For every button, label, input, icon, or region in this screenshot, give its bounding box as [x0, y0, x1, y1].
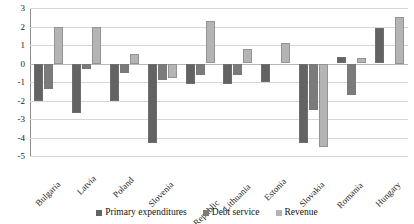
- bar-slot: [34, 8, 43, 156]
- x-axis-label-text: Estonia: [262, 177, 287, 202]
- y-axis-tick-label: 1: [21, 41, 31, 50]
- bar[interactable]: [375, 28, 384, 63]
- legend-swatch-icon: [276, 210, 282, 216]
- legend-label: Primary expenditures: [105, 208, 187, 218]
- bar-group: [332, 8, 370, 156]
- bar-group-bars: [257, 8, 295, 156]
- bar-slot: [281, 8, 290, 156]
- bar-slot: [82, 8, 91, 156]
- bar[interactable]: [54, 27, 63, 64]
- bar-slot: [357, 8, 366, 156]
- x-axis-label-text: Bulgaria: [34, 180, 62, 208]
- bar[interactable]: [281, 43, 290, 63]
- bar[interactable]: [309, 64, 318, 110]
- bar-slot: [385, 8, 394, 156]
- bar[interactable]: [72, 64, 81, 114]
- bar-slot: [92, 8, 101, 156]
- bar-group-bars: [295, 8, 333, 156]
- bar[interactable]: [233, 64, 242, 75]
- bar-slot: [271, 8, 280, 156]
- bar[interactable]: [34, 64, 43, 101]
- y-axis-tick-label: -1: [18, 78, 31, 87]
- bar-group-bars: [332, 8, 370, 156]
- x-axis-label-cell: Bulgaria: [30, 156, 68, 206]
- bar[interactable]: [130, 54, 139, 63]
- bar[interactable]: [261, 64, 270, 83]
- x-axis-label-text: Romania: [336, 181, 365, 210]
- bar-group: [143, 8, 181, 156]
- x-axis-label: Hungary: [396, 158, 414, 187]
- x-axis-label-cell: Slovenia: [143, 156, 181, 206]
- legend-label: Debt service: [212, 208, 260, 218]
- bar-group-bars: [30, 8, 68, 156]
- bar-slot: [186, 8, 195, 156]
- bar[interactable]: [148, 64, 157, 144]
- bar-group: [370, 8, 408, 156]
- y-axis-tick-label: -4: [18, 133, 31, 142]
- legend-item[interactable]: Revenue: [276, 208, 318, 218]
- x-axis-label-cell: Hungary: [370, 156, 408, 206]
- x-axis-label-cell: Slovakia: [295, 156, 333, 206]
- x-axis-label-cell: Romania: [332, 156, 370, 206]
- bar-group: [68, 8, 106, 156]
- y-axis-tick-label: 3: [21, 4, 31, 13]
- bar-groups: [30, 8, 408, 156]
- bar-slot: [110, 8, 119, 156]
- bar-group-bars: [219, 8, 257, 156]
- bar[interactable]: [44, 64, 53, 90]
- bar-group: [257, 8, 295, 156]
- bar-slot: [158, 8, 167, 156]
- x-axis-label-text: Latvia: [75, 174, 98, 197]
- bar-slot: [223, 8, 232, 156]
- legend-swatch-icon: [96, 210, 102, 216]
- bar-slot: [319, 8, 328, 156]
- bar[interactable]: [120, 64, 129, 73]
- bar[interactable]: [92, 27, 101, 64]
- bar[interactable]: [110, 64, 119, 101]
- bar[interactable]: [168, 64, 177, 79]
- y-axis-tick-label: 2: [21, 22, 31, 31]
- legend-item[interactable]: Debt service: [203, 208, 260, 218]
- bar[interactable]: [319, 64, 328, 147]
- bar[interactable]: [196, 64, 205, 75]
- bar[interactable]: [299, 64, 308, 144]
- chart-legend: Primary expendituresDebt serviceRevenue: [0, 208, 414, 218]
- y-axis-tick-label: -3: [18, 115, 31, 124]
- bar-slot: [72, 8, 81, 156]
- bar-group: [30, 8, 68, 156]
- bar-slot: [243, 8, 252, 156]
- bar-chart: 3210-1-2-3-4-5 BulgariaLatviaPolandSlove…: [0, 0, 414, 224]
- bar[interactable]: [223, 64, 232, 84]
- x-axis-label-cell: Czech Republic: [181, 156, 219, 206]
- bar[interactable]: [158, 64, 167, 81]
- bar[interactable]: [243, 49, 252, 64]
- bar[interactable]: [206, 21, 215, 64]
- x-axis-label-cell: Latvia: [68, 156, 106, 206]
- bar-group: [181, 8, 219, 156]
- bar-group-bars: [181, 8, 219, 156]
- y-axis-tick-label: -5: [18, 152, 31, 161]
- bar[interactable]: [186, 64, 195, 84]
- bar[interactable]: [347, 64, 356, 95]
- bar-group-bars: [370, 8, 408, 156]
- x-axis-label-text: Slovakia: [298, 180, 327, 209]
- bar-group: [106, 8, 144, 156]
- x-axis-label-cell: Lithuania: [219, 156, 257, 206]
- bar[interactable]: [395, 17, 404, 63]
- bar-slot: [395, 8, 404, 156]
- x-axis-label-text: Hungary: [374, 180, 403, 209]
- bar[interactable]: [82, 64, 91, 70]
- x-axis-label-text: Poland: [112, 176, 136, 200]
- bar-slot: [196, 8, 205, 156]
- bar-slot: [54, 8, 63, 156]
- plot-area: 3210-1-2-3-4-5: [30, 8, 408, 156]
- bar-slot: [299, 8, 308, 156]
- legend-item[interactable]: Primary expenditures: [96, 208, 187, 218]
- bar[interactable]: [357, 58, 366, 64]
- bar-group-bars: [143, 8, 181, 156]
- bar-group-bars: [106, 8, 144, 156]
- bar-group-bars: [68, 8, 106, 156]
- legend-label: Revenue: [285, 208, 318, 218]
- bar-slot: [309, 8, 318, 156]
- bar[interactable]: [337, 57, 346, 63]
